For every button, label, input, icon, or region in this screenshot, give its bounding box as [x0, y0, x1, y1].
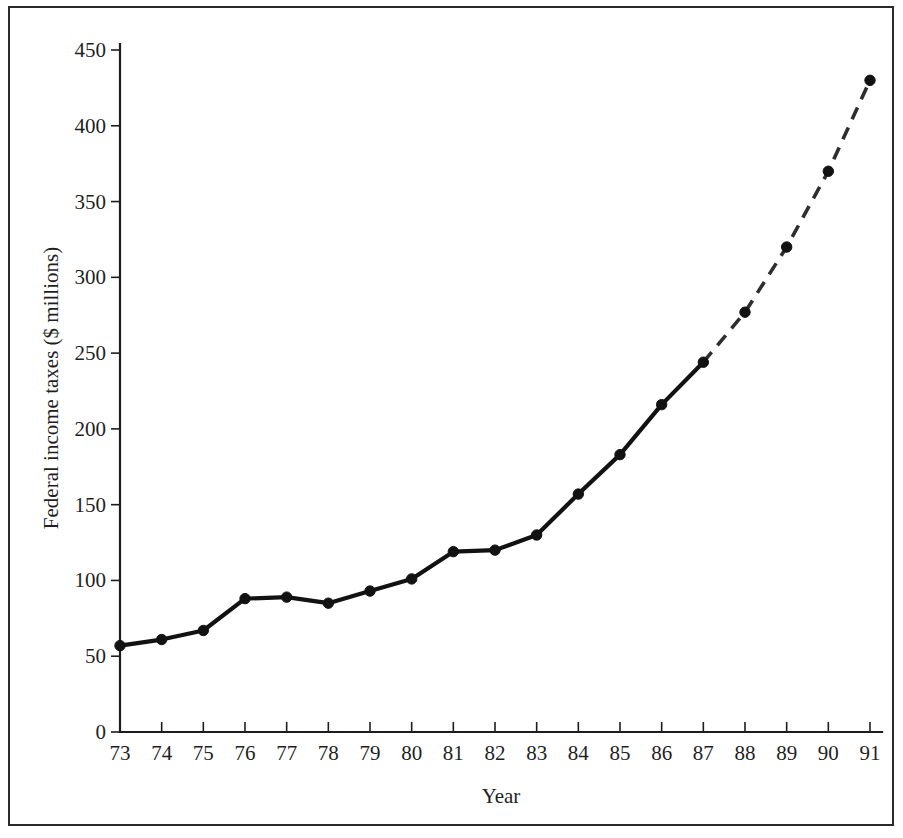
x-tick-label: 88	[735, 741, 756, 765]
x-tick-label: 75	[193, 741, 214, 765]
data-point-marker	[656, 399, 666, 409]
data-point-marker	[281, 592, 291, 602]
data-point-marker	[781, 242, 791, 252]
x-tick-label: 91	[860, 741, 881, 765]
y-axis-tick-labels: 050100150200250300350400450	[75, 38, 107, 744]
data-point-markers	[115, 75, 875, 651]
data-point-marker	[448, 546, 458, 556]
actual-series-line	[120, 362, 703, 645]
y-tick-label: 300	[75, 265, 107, 289]
data-point-marker	[323, 598, 333, 608]
data-point-marker	[698, 357, 708, 367]
x-tick-label: 83	[526, 741, 547, 765]
y-tick-label: 250	[75, 341, 107, 365]
y-tick-label: 0	[96, 720, 107, 744]
x-tick-label: 76	[235, 741, 256, 765]
x-tick-label: 90	[818, 741, 839, 765]
x-tick-label: 84	[568, 741, 590, 765]
x-tick-label: 86	[651, 741, 672, 765]
data-point-marker	[156, 634, 166, 644]
x-tick-label: 78	[318, 741, 339, 765]
y-tick-label: 400	[75, 114, 107, 138]
x-tick-label: 85	[610, 741, 631, 765]
x-tick-label: 89	[776, 741, 797, 765]
data-point-marker	[531, 530, 541, 540]
figure-frame: 050100150200250300350400450 737475767778…	[8, 6, 894, 826]
x-tick-label: 87	[693, 741, 714, 765]
y-tick-label: 150	[75, 493, 107, 517]
data-point-marker	[865, 75, 875, 85]
data-point-marker	[115, 640, 125, 650]
x-tick-label: 81	[443, 741, 464, 765]
y-tick-label: 200	[75, 417, 107, 441]
data-point-marker	[365, 586, 375, 596]
x-axis-ticks	[120, 722, 870, 732]
data-point-marker	[740, 307, 750, 317]
data-point-marker	[573, 489, 583, 499]
y-tick-label: 50	[85, 644, 106, 668]
data-point-marker	[198, 625, 208, 635]
data-point-marker	[240, 593, 250, 603]
y-tick-label: 100	[75, 568, 107, 592]
y-tick-label: 450	[75, 38, 107, 62]
y-tick-label: 350	[75, 190, 107, 214]
data-point-marker	[823, 166, 833, 176]
x-axis-title: Year	[482, 784, 521, 808]
y-axis-title: Federal income taxes ($ millions)	[39, 247, 63, 529]
x-tick-label: 74	[151, 741, 173, 765]
x-axis-tick-labels: 73747576777879808182838485868788899091	[110, 741, 881, 765]
x-tick-label: 79	[360, 741, 381, 765]
data-point-marker	[615, 449, 625, 459]
data-point-marker	[490, 545, 500, 555]
x-tick-label: 73	[110, 741, 131, 765]
y-axis-ticks	[111, 50, 120, 732]
projected-series-line	[703, 80, 870, 362]
x-tick-label: 82	[485, 741, 506, 765]
line-chart-svg: 050100150200250300350400450 737475767778…	[10, 8, 896, 828]
x-tick-label: 80	[401, 741, 422, 765]
chart-plot-area: 050100150200250300350400450 737475767778…	[10, 8, 896, 828]
x-tick-label: 77	[276, 741, 297, 765]
data-point-marker	[406, 574, 416, 584]
